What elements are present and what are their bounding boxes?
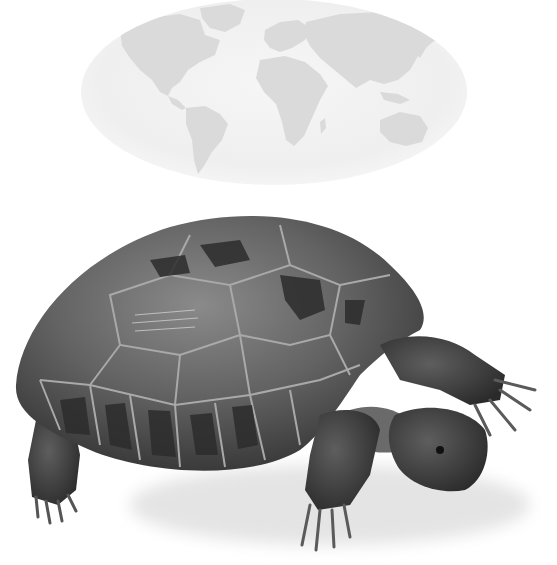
tortoise-graphic (0, 205, 557, 565)
world-map-graphic (80, 0, 468, 187)
tortoise-eye (436, 446, 444, 454)
tortoise-photo (0, 205, 557, 565)
world-map (80, 0, 468, 187)
image-scene: World map (elliptical projection) Tortoi… (0, 0, 557, 565)
